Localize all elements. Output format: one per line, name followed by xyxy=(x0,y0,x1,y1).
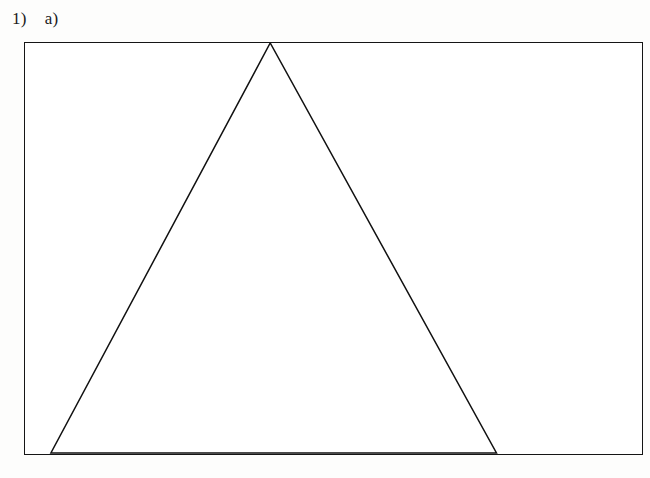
exercise-part-label: a) xyxy=(45,9,59,29)
pascal-rows-stack xyxy=(25,43,642,454)
pascal-triangle-diagram xyxy=(24,42,643,455)
exercise-header: 1) a) xyxy=(12,6,59,32)
exercise-item-number: 1) xyxy=(12,9,27,29)
figure-root: 1) a) xyxy=(0,0,650,478)
